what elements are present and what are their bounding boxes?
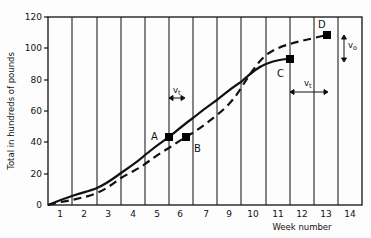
point-b-label: B	[194, 143, 201, 154]
x-tick: 6	[177, 209, 183, 219]
point-a-label: A	[151, 131, 158, 142]
vo-label: vo	[348, 40, 357, 52]
x-tick: 7	[203, 209, 209, 219]
y-tick-60: 60	[31, 106, 43, 116]
vt-label-ab: vt	[173, 85, 181, 97]
x-tick: 5	[154, 209, 160, 219]
point-c-marker	[286, 55, 294, 63]
x-tick: 11	[272, 209, 283, 219]
vo-arrow	[342, 35, 347, 62]
x-tick: 2	[81, 209, 87, 219]
x-tick: 1	[57, 209, 63, 219]
x-tick: 4	[130, 209, 136, 219]
dashed-series-line	[48, 35, 327, 205]
vt-arrow-ab	[169, 96, 185, 101]
point-d-label: D	[318, 19, 326, 30]
y-tick-80: 80	[31, 75, 43, 85]
point-a-marker	[165, 133, 173, 141]
vertical-gridlines	[72, 17, 338, 205]
y-tick-100: 100	[25, 43, 42, 53]
vt-label-cd: vt	[304, 78, 312, 90]
plot-frame	[48, 17, 362, 205]
point-b-marker	[182, 133, 190, 141]
vt-arrow-cd	[290, 90, 328, 95]
x-tick: 13	[320, 209, 331, 219]
x-tick: 9	[226, 209, 232, 219]
y-tick-labels: 120 100 80 60 40 20 0	[25, 12, 42, 210]
y-tick-120: 120	[25, 12, 42, 22]
point-c-label: C	[277, 68, 284, 79]
chart: 120 100 80 60 40 20 0 Total in hundreds …	[0, 0, 371, 238]
x-tick: 10	[247, 209, 259, 219]
x-axis-label: Week number	[272, 222, 332, 232]
y-tick-40: 40	[31, 137, 43, 147]
x-tick-labels: 1 2 3 4 5 6 7 9 10 11 12 13 14	[57, 209, 356, 219]
x-tick: 3	[105, 209, 111, 219]
y-tick-20: 20	[31, 169, 43, 179]
point-d-marker	[323, 31, 331, 39]
y-tick-0: 0	[36, 200, 42, 210]
y-axis-label: Total in hundreds of pounds	[6, 52, 16, 171]
x-tick: 12	[296, 209, 307, 219]
x-tick: 14	[344, 209, 356, 219]
